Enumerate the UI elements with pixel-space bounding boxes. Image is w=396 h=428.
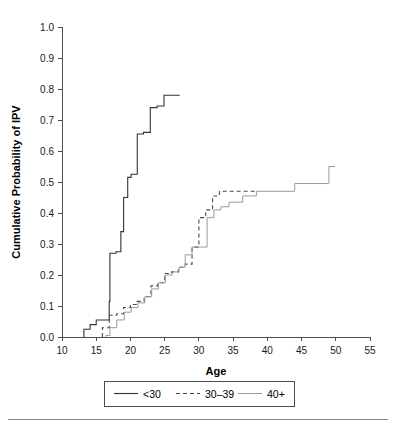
y-tick-label: 0.3 [40,239,54,250]
legend-label-1: 30–39 [205,388,234,400]
y-tick-label: 0.8 [40,84,54,95]
series-line-40- [106,167,335,338]
figure-container: 0.00.10.20.30.40.50.60.70.80.91.01015202… [0,0,396,428]
x-tick-label: 55 [364,345,376,356]
series-line--30 [84,95,180,337]
y-tick-label: 0.5 [40,177,54,188]
y-tick-label: 0.1 [40,301,54,312]
y-tick-label: 0.2 [40,270,54,281]
y-tick-label: 1.0 [40,22,54,33]
legend-label-0: <30 [143,388,161,400]
y-tick-label: 0.4 [40,208,54,219]
series-line-30-39 [102,191,255,337]
x-tick-label: 15 [91,345,103,356]
y-tick-label: 0.7 [40,115,54,126]
x-tick-label: 40 [262,345,274,356]
x-axis-title: Age [206,365,227,377]
cumulative-probability-chart: 0.00.10.20.30.40.50.60.70.80.91.01015202… [0,0,396,428]
y-tick-label: 0.9 [40,53,54,64]
plot-area: 0.00.10.20.30.40.50.60.70.80.91.01015202… [8,22,388,420]
y-axis-title: Cumulative Probability of IPV [10,105,22,259]
x-tick-label: 30 [193,345,205,356]
legend-label-2: 40+ [267,388,285,400]
x-tick-label: 35 [228,345,240,356]
x-tick-label: 25 [159,345,171,356]
y-tick-label: 0.0 [40,332,54,343]
y-tick-label: 0.6 [40,146,54,157]
x-tick-label: 50 [330,345,342,356]
x-tick-label: 10 [56,345,68,356]
x-tick-label: 20 [125,345,137,356]
x-tick-label: 45 [296,345,308,356]
